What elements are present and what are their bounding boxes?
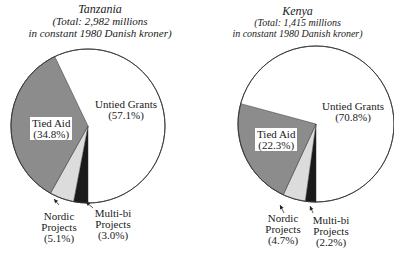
kenya-tied-aid-label: Tied Aid (22.3%) (255, 128, 297, 151)
tanzania-tied-aid-label: Tied Aid (34.8%) (30, 117, 72, 140)
kenya-untied-grants-label: Untied Grants (70.8%) (321, 101, 385, 123)
label-value: (5.1%) (38, 233, 80, 244)
label-value: (3.0%) (91, 230, 135, 241)
kenya-multi-bi-projects-label: Multi-bi Projects (2.2%) (309, 215, 353, 248)
label-value: (2.2%) (309, 237, 353, 248)
tanzania-untied-grants-label: Untied Grants (57.1%) (94, 99, 158, 121)
label-value: (34.8%) (32, 129, 70, 140)
tanzania-multi-bi-projects-label: Multi-bi Projects (3.0%) (91, 208, 135, 241)
tanzania-nordic-projects-label: Nordic Projects (5.1%) (38, 211, 80, 244)
label-value: (4.7%) (262, 235, 304, 246)
label-value: (70.8%) (321, 112, 385, 123)
kenya-nordic-projects-label: Nordic Projects (4.7%) (262, 213, 304, 246)
label-value: (57.1%) (94, 110, 158, 121)
label-value: (22.3%) (257, 140, 295, 151)
